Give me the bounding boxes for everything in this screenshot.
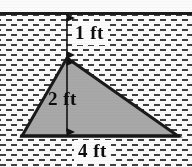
dimension-label-4ft: 4 ft [74,140,111,162]
dimension-label-1ft: 1 ft [72,21,108,45]
triangle-gate-figure: 1 ft 2 ft 4 ft [0,0,192,167]
dimension-label-2ft: 2 ft [46,88,80,110]
